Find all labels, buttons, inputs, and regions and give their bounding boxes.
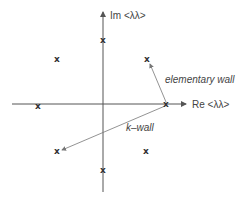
point-marker-lower-right: x xyxy=(143,146,149,156)
elementary-wall-arrow xyxy=(150,64,166,102)
elementary-wall-label: elementary wall xyxy=(165,74,235,85)
point-marker-top: x xyxy=(100,35,106,45)
point-marker-left: x xyxy=(35,101,41,111)
real-axis-label: Re <λλ> xyxy=(192,99,229,110)
k-wall-label: k–wall xyxy=(126,122,155,133)
point-marker-upper-right: x xyxy=(144,54,150,64)
point-marker-right-on-axis: x xyxy=(163,99,169,109)
point-marker-bottom: x xyxy=(100,165,106,175)
diagram-canvas: Im <λλ> Re <λλ> elementary wall k–wall x… xyxy=(0,0,247,202)
point-marker-lower-left: x xyxy=(54,146,60,156)
imaginary-axis-label: Im <λλ> xyxy=(110,10,146,21)
point-marker-upper-left: x xyxy=(54,54,60,64)
